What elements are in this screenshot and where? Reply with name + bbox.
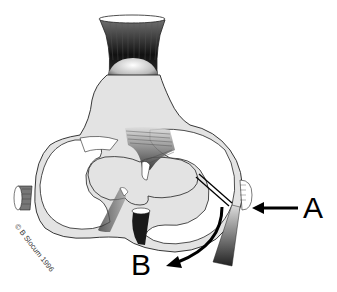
medial-collateral-ligament	[14, 186, 32, 210]
lateral-collateral-stub	[240, 180, 252, 210]
label-a: A	[303, 193, 323, 223]
label-b: B	[131, 250, 151, 280]
arrow-a-icon	[252, 202, 298, 214]
patellar-tendon	[99, 15, 165, 82]
knee-diagram	[0, 0, 337, 292]
